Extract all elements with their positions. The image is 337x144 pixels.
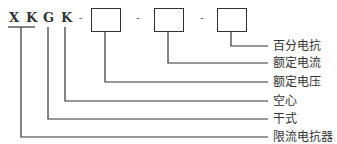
code-letter-x: X <box>9 11 19 25</box>
rated-current-box <box>154 8 184 32</box>
separator-dash: - <box>200 12 204 26</box>
label-air-core: 空心 <box>273 94 297 108</box>
rated-voltage-box <box>91 8 121 32</box>
code-letter-g: G <box>43 11 54 25</box>
label-rated-voltage: 额定电压 <box>273 75 321 89</box>
percent-reactance-box <box>217 8 247 32</box>
code-letter-k: K <box>26 11 37 25</box>
separator-dash: - <box>79 12 83 26</box>
label-current-limiting-reactor: 限流电抗器 <box>273 130 333 144</box>
code-letter-k2: K <box>61 11 72 25</box>
separator-dash: - <box>136 12 140 26</box>
label-dry-type: 干式 <box>273 112 297 126</box>
label-rated-current: 额定电流 <box>273 56 321 70</box>
label-percent-reactance: 百分电抗 <box>273 39 321 53</box>
